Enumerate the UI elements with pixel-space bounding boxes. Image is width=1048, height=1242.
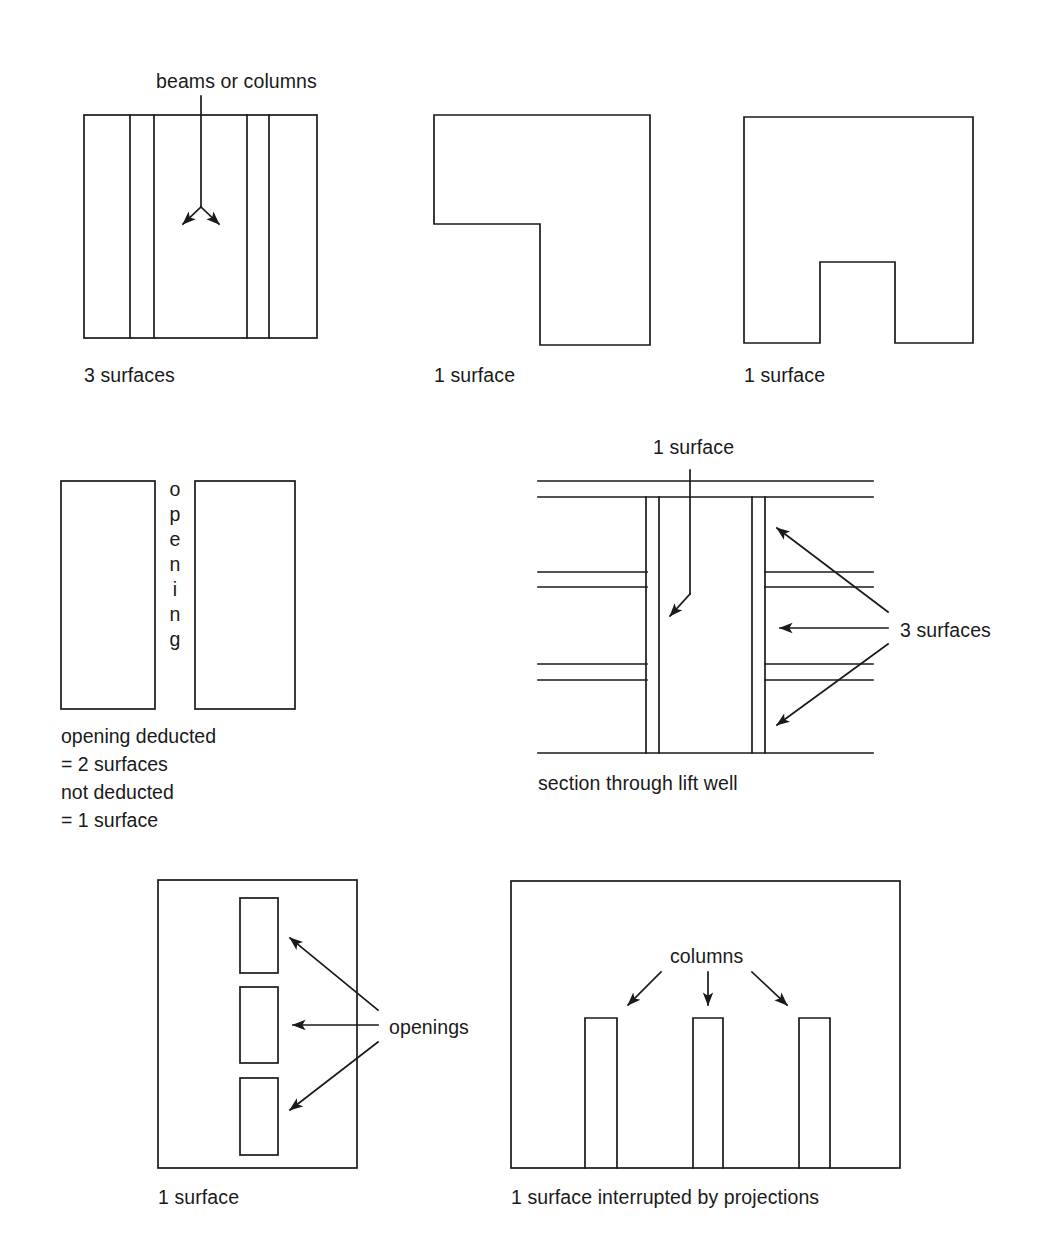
caption-opening-deducted: opening deducted [61,722,216,750]
opening-letter-i: i [164,577,186,602]
figure-notched-square [744,117,973,343]
label-beams-or-columns: beams or columns [156,68,317,94]
leader-openings [290,938,378,1110]
label-opening-vertical: o p e n i n g [164,477,186,652]
caption-one-surface-l-shape: 1 surface [434,362,515,388]
opening-letter-o: o [164,477,186,502]
figure-l-shape [434,115,650,345]
opening-letter-n2: n [164,602,186,627]
label-columns: columns [670,943,743,969]
diagram-root: beams or columns 3 surfaces 1 surface 1 … [0,0,1048,1242]
figure-openings [158,880,357,1168]
opening-letter-g: g [164,627,186,652]
leader-columns [628,972,787,1005]
caption-not-deducted: not deducted [61,778,216,806]
label-one-surface-lift-well: 1 surface [653,434,734,460]
caption-opening-block: opening deducted = 2 surfaces not deduct… [61,722,216,834]
label-openings: openings [389,1014,469,1040]
caption-three-surfaces-left: 3 surfaces [84,362,175,388]
label-three-surfaces-lift-well: 3 surfaces [900,617,991,643]
opening-letter-n: n [164,552,186,577]
figure-lift-well [538,481,873,753]
opening-letter-p: p [164,502,186,527]
leader-lift-one-surface [670,470,690,616]
figure-projections [511,881,900,1168]
leader-lift-three-surfaces [777,528,888,725]
caption-equals-one-surface: = 1 surface [61,806,216,834]
diagram-canvas [0,0,1048,1242]
caption-one-surface-notched-square: 1 surface [744,362,825,388]
opening-letter-e: e [164,527,186,552]
caption-one-surface-openings: 1 surface [158,1184,239,1210]
caption-section-through-lift-well: section through lift well [538,770,738,796]
caption-equals-two-surfaces: = 2 surfaces [61,750,216,778]
caption-one-surface-interrupted-by-projections: 1 surface interrupted by projections [511,1184,819,1210]
